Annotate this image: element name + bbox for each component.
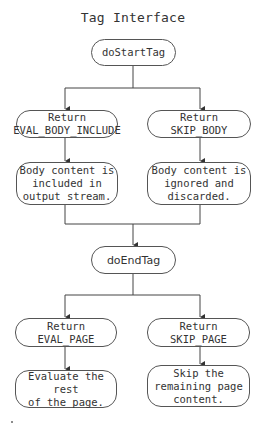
node-do-start-tag: doStartTag — [91, 39, 176, 66]
node-body-ignored: Body content is ignored and discarded. — [147, 162, 251, 205]
node-do-end-tag: doEndTag — [91, 246, 176, 274]
node-evaluate-rest: Evaluate the rest of the page. — [15, 370, 117, 408]
node-return-skip-page: Return SKIP_PAGE — [147, 318, 250, 347]
stray-dot-mark — [11, 421, 13, 423]
node-return-skip-body: Return SKIP_BODY — [147, 110, 251, 138]
node-body-included: Body content is included in output strea… — [16, 162, 118, 205]
node-return-eval-page: Return EVAL_PAGE — [15, 318, 117, 347]
node-return-eval-body-include: Return EVAL_BODY_INCLUDE — [16, 110, 118, 138]
node-skip-remaining: Skip the remaining page content. — [147, 365, 250, 407]
